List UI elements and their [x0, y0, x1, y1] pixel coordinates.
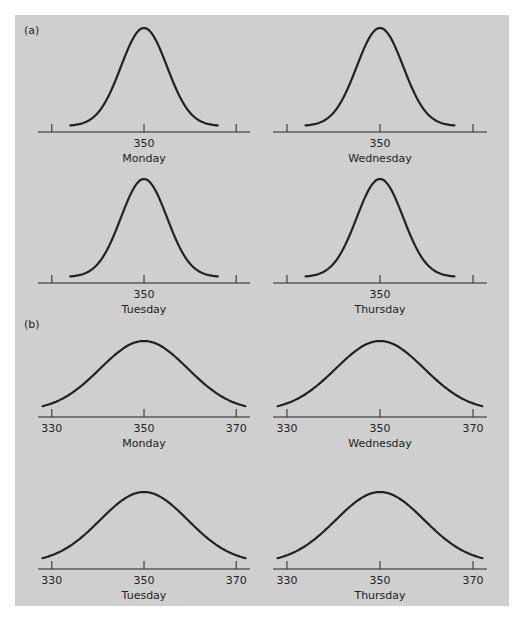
- x-tick-label: 350: [370, 288, 391, 301]
- part-label-b: (b): [24, 318, 40, 331]
- x-axis-label: Thursday: [353, 589, 406, 602]
- normal-curve: [278, 492, 483, 558]
- x-tick-label: 330: [276, 574, 297, 587]
- x-axis-label: Monday: [122, 437, 166, 450]
- x-tick-label: 370: [463, 574, 484, 587]
- x-tick-label: 350: [134, 288, 155, 301]
- x-tick-label: 350: [370, 422, 391, 435]
- normal-curve: [306, 28, 455, 125]
- x-tick-label: 370: [226, 422, 247, 435]
- x-axis-label: Tuesday: [121, 589, 167, 602]
- x-tick-label: 330: [41, 574, 62, 587]
- x-axis-label: Thursday: [353, 303, 406, 316]
- normal-curve: [70, 28, 217, 125]
- x-tick-label: 330: [41, 422, 62, 435]
- normal-curve: [306, 179, 455, 276]
- figure-svg: (a) (b) 350Monday350Wednesday350Tuesday3…: [0, 0, 527, 620]
- x-tick-label: 350: [134, 574, 155, 587]
- x-axis-label: Monday: [122, 152, 166, 165]
- normal-curve: [278, 341, 483, 406]
- chart-a-tuesday: 350Tuesday: [38, 179, 250, 316]
- chart-b-wednesday: 330350370Wednesday: [273, 341, 487, 450]
- x-axis-label: Wednesday: [348, 152, 412, 165]
- x-tick-label: 350: [134, 422, 155, 435]
- x-tick-label: 370: [463, 422, 484, 435]
- chart-b-thursday: 330350370Thursday: [273, 492, 487, 602]
- chart-a-thursday: 350Thursday: [273, 179, 487, 316]
- part-label-a: (a): [24, 24, 39, 37]
- x-tick-label: 350: [370, 137, 391, 150]
- chart-b-tuesday: 330350370Tuesday: [38, 492, 250, 602]
- x-tick-label: 350: [134, 137, 155, 150]
- x-axis-label: Wednesday: [348, 437, 412, 450]
- chart-b-monday: 330350370Monday: [38, 341, 250, 450]
- normal-curve: [70, 179, 217, 276]
- chart-a-monday: 350Monday: [38, 28, 250, 165]
- normal-curve: [43, 341, 246, 406]
- chart-a-wednesday: 350Wednesday: [273, 28, 487, 165]
- x-tick-label: 350: [370, 574, 391, 587]
- x-axis-label: Tuesday: [121, 303, 167, 316]
- normal-curve: [43, 492, 246, 558]
- x-tick-label: 370: [226, 574, 247, 587]
- x-tick-label: 330: [276, 422, 297, 435]
